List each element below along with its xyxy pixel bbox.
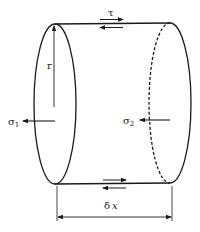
cylinder-element-diagram: τ r σ1 σ2 δx — [0, 0, 200, 232]
top-edge — [55, 23, 170, 24]
sigma2-label: σ2 — [123, 115, 134, 128]
length-label: δx — [104, 200, 118, 211]
radius-label: r — [47, 60, 52, 71]
sigma1-label: σ1 — [8, 116, 19, 129]
shear-label: τ — [108, 7, 114, 18]
bottom-edge — [55, 183, 170, 184]
right-end-face-hidden-edge — [149, 23, 170, 183]
left-end-face — [34, 24, 76, 184]
right-end-face-visible-edge — [170, 23, 191, 183]
